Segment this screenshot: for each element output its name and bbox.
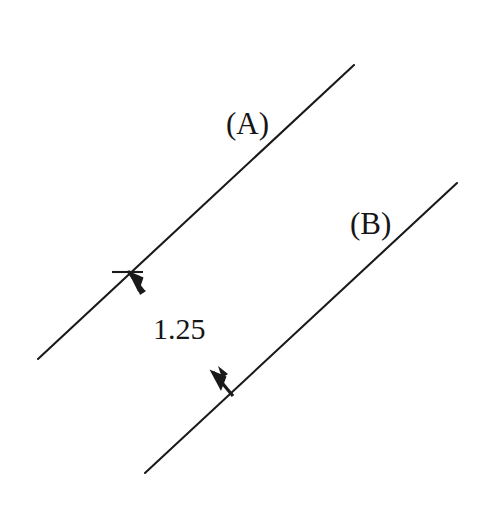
figure-canvas: [0, 0, 483, 513]
line-b-label: (B): [350, 208, 391, 239]
line-a-label: (A): [226, 108, 269, 139]
distance-label: 1.25: [153, 314, 206, 344]
geometry-figure: (A) (B) 1.25: [0, 0, 483, 513]
figure-background: [0, 0, 483, 513]
